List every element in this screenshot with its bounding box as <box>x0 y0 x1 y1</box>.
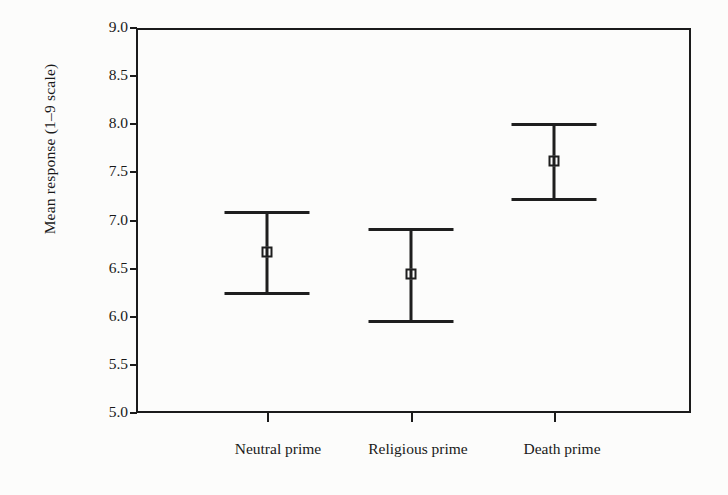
y-tick-label: 6.0 <box>78 308 128 324</box>
y-tick-label: 9.0 <box>78 19 128 35</box>
y-axis-title: Mean response (1–9 scale) <box>41 19 59 279</box>
x-tick-label: Neutral prime <box>235 440 322 458</box>
y-tick-label-text: 5.5 <box>84 356 128 372</box>
error-bar-lower-cap <box>369 320 454 323</box>
x-tick-mark <box>411 413 413 422</box>
y-tick-label: 5.5 <box>78 356 128 372</box>
y-tick-label-text: 6.0 <box>84 308 128 324</box>
y-tick-label: 8.5 <box>78 67 128 83</box>
y-tick-label: 7.5 <box>78 163 128 179</box>
error-bar-upper-cap <box>369 228 454 231</box>
error-bar-lower-cap <box>225 292 310 295</box>
y-tick-label: 6.5 <box>78 260 128 276</box>
marker-stem-overlap <box>266 247 269 258</box>
marker-stem-overlap <box>553 155 556 166</box>
x-tick-mark <box>554 413 556 422</box>
y-tick-label-text: 9.0 <box>84 19 128 35</box>
y-tick-label-text: 5.0 <box>84 404 128 420</box>
y-tick-label-text: 7.0 <box>84 212 128 228</box>
x-tick-label: Death prime <box>523 440 600 458</box>
error-bar-chart: Mean response (1–9 scale) 5.05.56.06.57.… <box>0 0 728 495</box>
error-bar-upper-cap <box>512 123 597 126</box>
y-tick-label-text: 7.5 <box>84 163 128 179</box>
y-tick-label: 5.0 <box>78 404 128 420</box>
y-tick-label-text: 8.0 <box>84 115 128 131</box>
y-tick-label-text: 6.5 <box>84 260 128 276</box>
plot-area <box>136 28 691 413</box>
marker-stem-overlap <box>410 269 413 280</box>
y-tick-label: 7.0 <box>78 212 128 228</box>
x-tick-label: Religious prime <box>368 440 467 458</box>
error-bar-upper-cap <box>225 211 310 214</box>
error-bar-lower-cap <box>512 198 597 201</box>
x-tick-mark <box>267 413 269 422</box>
y-tick-label-text: 8.5 <box>84 67 128 83</box>
y-tick-label: 8.0 <box>78 115 128 131</box>
